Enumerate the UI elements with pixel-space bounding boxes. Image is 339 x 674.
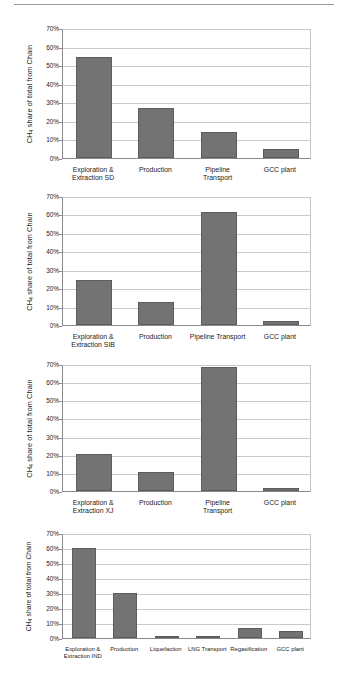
x-category-label: Pipeline Transport	[187, 333, 249, 341]
x-category-label-line: GCC plant	[249, 166, 311, 174]
gridline	[63, 419, 310, 420]
plot-area	[62, 197, 311, 326]
gridline	[63, 197, 310, 198]
y-tick-mark	[59, 122, 62, 123]
x-category-label-line: Regasification	[228, 646, 270, 653]
gridline	[63, 29, 310, 30]
x-category-label-line: Extraction XJ	[62, 507, 124, 515]
y-tick-label: 30%	[46, 434, 59, 440]
x-category-label-line: GCC plant	[270, 646, 312, 653]
x-category-label-line: Extraction SD	[62, 174, 124, 182]
y-tick-label: 0%	[50, 489, 59, 495]
x-category-label-line: Extraction SIB	[62, 341, 124, 349]
y-tick-label: 20%	[46, 286, 59, 292]
y-tick-mark	[59, 401, 62, 402]
x-tick-mark	[271, 638, 272, 639]
y-tick-label: 10%	[46, 621, 59, 627]
y-tick-label: 40%	[46, 249, 59, 255]
chart-chart-ind: CH4 share of total from Chain70%60%50%40…	[0, 527, 339, 672]
y-tick-mark	[59, 159, 62, 160]
y-tick-label: 60%	[46, 212, 59, 218]
bar	[138, 108, 174, 159]
y-axis-tick-labels: 70%60%50%40%30%20%10%0%	[37, 527, 59, 639]
bar	[279, 631, 303, 638]
y-tick-label: 20%	[46, 606, 59, 612]
y-tick-mark	[59, 365, 62, 366]
y-tick-mark	[59, 308, 62, 309]
x-category-label: GCC plant	[249, 166, 311, 174]
y-tick-mark	[59, 474, 62, 475]
bar	[76, 280, 112, 325]
bar	[72, 548, 96, 638]
y-tick-label: 20%	[46, 119, 59, 125]
y-tick-label: 70%	[46, 26, 59, 32]
y-tick-mark	[59, 215, 62, 216]
chart-chart-sd: CH4 share of total from Chain70%60%50%40…	[0, 22, 339, 192]
gridline	[63, 579, 310, 580]
x-category-label: Regasification	[228, 646, 270, 653]
y-tick-label: 70%	[46, 531, 59, 537]
y-tick-mark	[59, 140, 62, 141]
x-category-label: Exploration &Extraction SD	[62, 166, 124, 183]
bar	[201, 132, 237, 158]
x-category-label: GCC plant	[249, 333, 311, 341]
x-category-label-line: Production	[124, 333, 186, 341]
y-tick-label: 30%	[46, 268, 59, 274]
x-tick-mark	[63, 325, 64, 326]
x-category-label-line: Pipeline	[187, 499, 249, 507]
x-category-label: Exploration &Extraction IND	[62, 646, 104, 660]
y-tick-label: 30%	[46, 591, 59, 597]
y-tick-label: 40%	[46, 576, 59, 582]
figure-page: CH4 share of total from Chain70%60%50%40…	[0, 0, 339, 674]
bar	[238, 628, 262, 638]
y-tick-mark	[59, 66, 62, 67]
y-tick-mark	[59, 252, 62, 253]
y-tick-mark	[59, 103, 62, 104]
plot-area	[62, 365, 311, 492]
x-category-label-line: Pipeline	[187, 166, 249, 174]
x-category-label-line: Transport	[187, 174, 249, 182]
x-tick-mark	[188, 325, 189, 326]
y-tick-label: 10%	[46, 471, 59, 477]
chart-chart-sib: CH4 share of total from Chain70%60%50%40…	[0, 190, 339, 359]
y-tick-mark	[59, 549, 62, 550]
y-axis-tick-labels: 70%60%50%40%30%20%10%0%	[37, 22, 59, 159]
gridline	[63, 234, 310, 235]
x-category-label: Liquefaction	[145, 646, 187, 653]
y-tick-label: 0%	[50, 323, 59, 329]
y-tick-mark	[59, 85, 62, 86]
top-divider-rule	[14, 4, 334, 5]
x-category-label-line: Exploration &	[62, 333, 124, 341]
x-category-label-line: Transport	[187, 507, 249, 515]
y-tick-label: 40%	[46, 82, 59, 88]
y-tick-label: 0%	[50, 156, 59, 162]
y-tick-mark	[59, 234, 62, 235]
x-category-label-line: GCC plant	[249, 333, 311, 341]
x-category-label: Production	[124, 166, 186, 174]
plot-area	[62, 534, 311, 639]
y-tick-mark	[59, 326, 62, 327]
x-tick-mark	[229, 638, 230, 639]
y-tick-label: 50%	[46, 561, 59, 567]
y-tick-mark	[59, 48, 62, 49]
x-tick-mark	[125, 158, 126, 159]
bar	[113, 593, 137, 638]
gridline	[63, 271, 310, 272]
chart-chart-xj: CH4 share of total from Chain70%60%50%40…	[0, 358, 339, 525]
y-tick-mark	[59, 579, 62, 580]
x-category-label-line: Exploration &	[62, 166, 124, 174]
x-category-label: Exploration &Extraction SIB	[62, 333, 124, 350]
y-tick-mark	[59, 534, 62, 535]
x-category-label-line: Pipeline Transport	[187, 333, 249, 341]
y-tick-label: 10%	[46, 137, 59, 143]
y-tick-mark	[59, 564, 62, 565]
bar	[76, 454, 112, 491]
x-tick-mark	[105, 638, 106, 639]
gridline	[63, 401, 310, 402]
y-tick-label: 60%	[46, 44, 59, 50]
y-axis-tick-labels: 70%60%50%40%30%20%10%0%	[37, 190, 59, 326]
y-tick-mark	[59, 419, 62, 420]
x-category-label: Production	[124, 333, 186, 341]
bar	[201, 212, 237, 325]
x-tick-mark	[188, 158, 189, 159]
